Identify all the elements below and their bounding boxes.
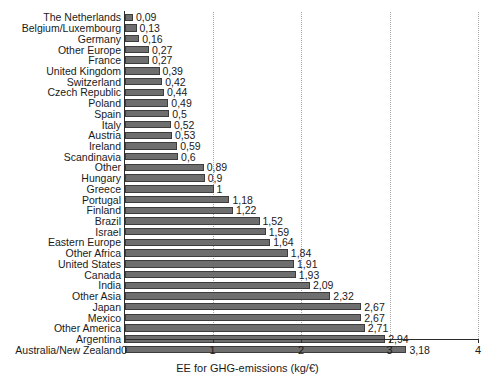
bar-row: Finland1,22 [124, 205, 478, 216]
x-tick-mark [301, 339, 302, 343]
bar [125, 14, 133, 21]
bar [125, 314, 361, 321]
bar-row: Belgium/Luxembourg0,13 [124, 23, 478, 34]
bar [125, 78, 162, 85]
x-tick-mark [390, 339, 391, 343]
plot-area: The Netherlands0,09Belgium/Luxembourg0,1… [124, 12, 478, 339]
bar-row: Israel1,59 [124, 226, 478, 237]
bar [125, 207, 233, 214]
bar [125, 271, 296, 278]
bar-value-label: 2,71 [368, 323, 388, 334]
bar-row: Other Asia2,32 [124, 291, 478, 302]
bar [125, 249, 288, 256]
x-tick-mark [213, 339, 214, 343]
bar-row: Japan2,67 [124, 301, 478, 312]
bar-row: Other0,89 [124, 162, 478, 173]
bar-row: Scandinavia0,6 [124, 151, 478, 162]
bar-row: Austria0,53 [124, 130, 478, 141]
bar-value-label: 2,32 [333, 291, 353, 302]
bar [125, 89, 164, 96]
bar-row: Portugal1,18 [124, 194, 478, 205]
bar-row: Brazil1,52 [124, 216, 478, 227]
bar-value-label: 1,22 [236, 205, 256, 216]
bar-row: India2,09 [124, 280, 478, 291]
gridline-4 [478, 12, 479, 339]
bar [125, 174, 205, 181]
bar [125, 153, 178, 160]
bar-row: Germany0,16 [124, 33, 478, 44]
bar-row: Mexico2,67 [124, 312, 478, 323]
bar-value-label: 3,18 [409, 344, 429, 355]
bar [125, 185, 214, 192]
x-tick-mark [124, 339, 125, 343]
bar-row: Ireland0,59 [124, 141, 478, 152]
bar [125, 196, 229, 203]
bar [125, 324, 365, 331]
bar [125, 35, 139, 42]
x-tick-label: 0 [121, 344, 127, 357]
bar-value-label: 0,6 [181, 151, 196, 162]
x-tick-label: 3 [386, 344, 392, 357]
bar-row: Other Europe0,27 [124, 44, 478, 55]
bar [125, 239, 270, 246]
bar-value-label: 1 [217, 183, 223, 194]
bar [125, 56, 149, 63]
bar [125, 346, 406, 353]
x-tick-mark [478, 339, 479, 343]
bar-row: The Netherlands0,09 [124, 12, 478, 23]
bar-row: Canada1,93 [124, 269, 478, 280]
bar [125, 217, 260, 224]
bar-row: Hungary0,9 [124, 173, 478, 184]
category-label: Australia/New Zealand [15, 344, 121, 355]
bar [125, 110, 169, 117]
bar [125, 282, 310, 289]
bar [125, 24, 137, 31]
bar-chart-figure: The Netherlands0,09Belgium/Luxembourg0,1… [0, 0, 495, 382]
bar-row: Greece1 [124, 184, 478, 195]
bar [125, 260, 294, 267]
bar [125, 164, 204, 171]
x-tick-label: 2 [298, 344, 304, 357]
bar [125, 121, 171, 128]
bar [125, 46, 149, 53]
bar [125, 228, 266, 235]
bar-row: Other America2,71 [124, 323, 478, 334]
bar-value-label: 2,09 [313, 280, 333, 291]
bar [125, 99, 168, 106]
x-tick-label: 4 [475, 344, 481, 357]
bar [125, 67, 160, 74]
bar [125, 303, 361, 310]
x-axis-title: EE for GHG-emissions (kg/€) [0, 362, 495, 374]
y-axis-line [124, 11, 125, 340]
bar [125, 132, 172, 139]
bar [125, 292, 330, 299]
bar [125, 142, 177, 149]
x-tick-label: 1 [209, 344, 215, 357]
